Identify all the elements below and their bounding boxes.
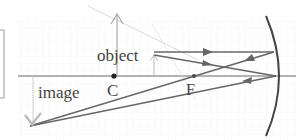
image-label: image xyxy=(38,83,80,102)
object-label: object xyxy=(97,46,139,65)
center-label: C xyxy=(107,81,118,100)
focus-label: F xyxy=(186,81,195,98)
left-frame-edge xyxy=(0,30,4,98)
focus-point xyxy=(192,74,196,78)
center-point xyxy=(111,73,116,78)
ray-diagram: object image C F xyxy=(0,0,305,140)
